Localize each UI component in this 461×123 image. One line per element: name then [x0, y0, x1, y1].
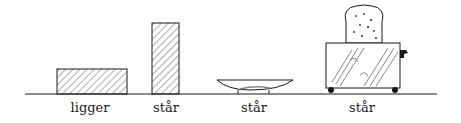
toast-slice: [345, 5, 383, 43]
label-lying: ligger: [71, 98, 110, 118]
label-standing-bowl: står: [241, 98, 267, 118]
label-standing-toaster: står: [349, 98, 375, 118]
toaster: [326, 5, 408, 93]
bowl: [217, 80, 293, 94]
standing-block: [152, 23, 179, 94]
illustration: ligger står står står: [0, 0, 461, 123]
label-standing-block: står: [153, 98, 179, 118]
lying-block: [57, 69, 127, 94]
